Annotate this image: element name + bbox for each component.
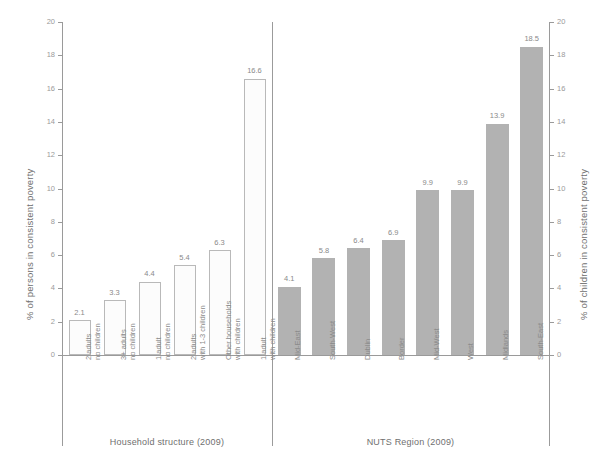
category-label-household-1: 3+ adultsno children xyxy=(119,323,138,360)
y-tick-mark-right-8 xyxy=(550,222,554,223)
y-tick-mark-right-2 xyxy=(550,322,554,323)
y-tick-mark-right-12 xyxy=(550,155,554,156)
bar-nuts-5[interactable] xyxy=(451,190,474,355)
y-tick-label-left-4: 4 xyxy=(38,284,55,292)
bar-slot: 5.8 xyxy=(312,22,335,355)
y-tick-mark-right-14 xyxy=(550,122,554,123)
bar-slot: 18.5 xyxy=(520,22,543,355)
category-label-nuts-5: West xyxy=(466,343,475,360)
panel-nuts-region: 4.15.86.46.99.99.913.918.5 xyxy=(272,22,550,355)
bar-value-label: 6.4 xyxy=(353,237,363,245)
bar-value-label: 9.9 xyxy=(423,179,433,187)
category-label-household-2: 1 adultno children xyxy=(154,323,173,360)
y-tick-label-right-14: 14 xyxy=(557,118,574,126)
bar-slot: 2.1 xyxy=(69,22,91,355)
y-axis-title-left: % of persons in consistent poverty xyxy=(24,169,35,321)
category-label-nuts-4: Mid-West xyxy=(432,328,441,360)
category-label-household-3: 2 adultswith 1-3 children xyxy=(189,305,208,360)
y-tick-label-right-6: 6 xyxy=(557,251,574,259)
bar-slot: 13.9 xyxy=(486,22,509,355)
panel-caption-nuts: NUTS Region (2009) xyxy=(272,437,549,447)
bar-household-5[interactable] xyxy=(244,79,266,355)
y-tick-label-left-10: 10 xyxy=(38,185,55,193)
bar-value-label: 6.3 xyxy=(214,239,224,247)
y-tick-mark-left-0 xyxy=(58,355,62,356)
category-label-nuts-1: South-West xyxy=(328,321,337,360)
y-tick-label-left-14: 14 xyxy=(38,118,55,126)
bar-chart: % of persons in consistent poverty % of … xyxy=(0,0,596,469)
bar-slot: 16.6 xyxy=(244,22,266,355)
bar-slot: 3.3 xyxy=(104,22,126,355)
panel-caption-household: Household structure (2009) xyxy=(62,437,272,447)
y-tick-mark-right-18 xyxy=(550,55,554,56)
bar-slot: 9.9 xyxy=(451,22,474,355)
y-tick-label-right-2: 2 xyxy=(557,318,574,326)
category-label-household-5: 1 adultwith children xyxy=(259,318,278,360)
bar-value-label: 4.1 xyxy=(284,275,294,283)
y-tick-label-left-6: 6 xyxy=(38,251,55,259)
y-tick-label-left-18: 18 xyxy=(38,51,55,59)
y-tick-label-right-4: 4 xyxy=(557,284,574,292)
bar-nuts-7[interactable] xyxy=(520,47,543,355)
category-label-nuts-3: Border xyxy=(397,337,406,360)
y-tick-label-left-12: 12 xyxy=(38,151,55,159)
y-tick-label-right-20: 20 xyxy=(557,18,574,26)
y-axis-title-right: % of children in consistent poverty xyxy=(578,169,589,320)
bar-value-label: 18.5 xyxy=(524,35,539,43)
y-tick-mark-right-4 xyxy=(550,288,554,289)
bar-value-label: 9.9 xyxy=(457,179,467,187)
bar-value-label: 5.8 xyxy=(319,247,329,255)
y-tick-label-left-16: 16 xyxy=(38,85,55,93)
bar-nuts-6[interactable] xyxy=(486,124,509,355)
bar-value-label: 4.4 xyxy=(144,270,154,278)
category-label-household-0: 2 adultsno children xyxy=(84,323,103,360)
category-label-nuts-7: South-East xyxy=(536,323,545,360)
bar-value-label: 2.1 xyxy=(74,309,84,317)
y-tick-mark-right-6 xyxy=(550,255,554,256)
bar-value-label: 16.6 xyxy=(247,67,262,75)
bar-value-label: 6.9 xyxy=(388,229,398,237)
bar-slot: 4.1 xyxy=(278,22,301,355)
category-label-nuts-0: Mid-East xyxy=(293,330,302,360)
bar-slot: 4.4 xyxy=(139,22,161,355)
y-tick-mark-right-20 xyxy=(550,22,554,23)
y-tick-label-right-0: 0 xyxy=(557,351,574,359)
y-tick-label-left-0: 0 xyxy=(38,351,55,359)
bar-slot: 6.9 xyxy=(382,22,405,355)
y-tick-label-right-18: 18 xyxy=(557,51,574,59)
bar-value-label: 3.3 xyxy=(109,289,119,297)
y-tick-label-right-10: 10 xyxy=(557,185,574,193)
y-tick-mark-right-0 xyxy=(550,355,554,356)
category-label-nuts-6: Midlands xyxy=(501,330,510,360)
y-tick-mark-right-10 xyxy=(550,189,554,190)
plot-area: 2.13.34.45.46.316.6 4.15.86.46.99.99.913… xyxy=(62,22,550,355)
y-tick-mark-right-16 xyxy=(550,89,554,90)
category-label-nuts-2: Dublin xyxy=(363,339,372,360)
bar-value-label: 13.9 xyxy=(490,112,505,120)
y-tick-label-right-12: 12 xyxy=(557,151,574,159)
y-tick-label-right-16: 16 xyxy=(557,85,574,93)
y-tick-label-left-2: 2 xyxy=(38,318,55,326)
bar-slot: 6.4 xyxy=(347,22,370,355)
y-tick-label-right-8: 8 xyxy=(557,218,574,226)
bar-value-label: 5.4 xyxy=(179,254,189,262)
category-label-household-4: Other householdswith children xyxy=(224,301,243,360)
y-tick-label-left-20: 20 xyxy=(38,18,55,26)
y-tick-label-left-8: 8 xyxy=(38,218,55,226)
bar-slot: 9.9 xyxy=(416,22,439,355)
